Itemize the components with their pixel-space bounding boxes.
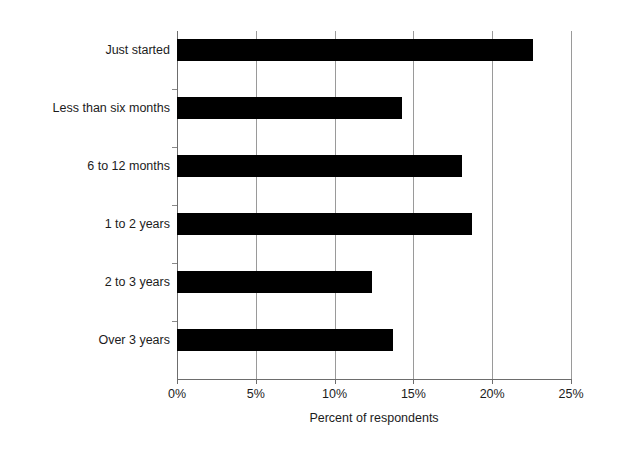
bar [177, 155, 462, 177]
x-tick-label: 15% [401, 387, 426, 401]
gridline-25 [571, 31, 572, 379]
x-axis-title: Percent of respondents [177, 411, 571, 426]
category-label: Less than six months [0, 101, 170, 115]
bar [177, 39, 533, 61]
x-tick-label: 25% [558, 387, 583, 401]
x-tick-label: 20% [480, 387, 505, 401]
x-tick-label: 5% [247, 387, 265, 401]
category-label: Over 3 years [0, 333, 170, 347]
y-tick-mark [172, 89, 177, 90]
y-tick-mark [172, 147, 177, 148]
bar [177, 271, 372, 293]
category-label: 2 to 3 years [0, 275, 170, 289]
x-tick-mark [571, 379, 572, 384]
y-tick-mark [172, 263, 177, 264]
bar [177, 213, 472, 235]
bar-chart-figure: Just startedLess than six months6 to 12 … [0, 0, 631, 450]
x-tick-mark [256, 379, 257, 384]
x-tick-mark [335, 379, 336, 384]
gridline-15 [413, 31, 414, 379]
x-tick-mark [177, 379, 178, 384]
gridline-5 [256, 31, 257, 379]
x-tick-mark [413, 379, 414, 384]
bar [177, 329, 393, 351]
x-tick-label: 10% [322, 387, 347, 401]
category-label: 1 to 2 years [0, 217, 170, 231]
gridline-10 [335, 31, 336, 379]
plot-area [177, 31, 571, 379]
x-axis-line [177, 379, 571, 380]
x-tick-label: 0% [168, 387, 186, 401]
bar [177, 97, 402, 119]
x-tick-mark [492, 379, 493, 384]
category-label: Just started [0, 43, 170, 57]
category-label: 6 to 12 months [0, 159, 170, 173]
y-tick-mark [172, 321, 177, 322]
gridline-0 [177, 31, 178, 379]
y-tick-mark [172, 205, 177, 206]
gridline-20 [492, 31, 493, 379]
